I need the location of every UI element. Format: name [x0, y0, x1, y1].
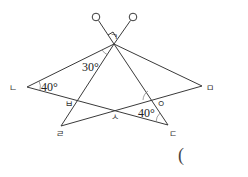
point-label-mieum: ㅁ — [206, 83, 214, 93]
angle-arc-giyeok — [102, 50, 108, 55]
angle-label-nieun: 40° — [41, 80, 58, 94]
angle-arc-ieung — [143, 91, 148, 100]
angle-label-giyeok: 30° — [82, 60, 99, 74]
answer-paren: ( — [178, 145, 184, 166]
point-label-ieung: ㅇ — [157, 99, 165, 109]
circle-right-icon — [129, 13, 137, 21]
triangle-giyeok-rieul-mieum — [61, 44, 202, 126]
point-label-rieul: ㄹ — [56, 129, 64, 139]
point-label-nieun: ㄴ — [9, 83, 17, 93]
angle-arc-digeut — [156, 113, 160, 122]
circle-left-icon — [92, 13, 100, 21]
angle-label-digeut: 40° — [138, 106, 155, 120]
point-label-bieup: ㅂ — [65, 99, 73, 109]
geometry-diagram: 40° 30° 40° ㄱ ㄴ ㅁ ㄹ ㄷ ㅂ ㅅ ㅇ ( — [0, 0, 248, 177]
point-label-siot: ㅅ — [111, 112, 119, 122]
point-label-digeut: ㄷ — [169, 129, 177, 139]
point-label-giyeok: ㄱ — [110, 32, 118, 42]
